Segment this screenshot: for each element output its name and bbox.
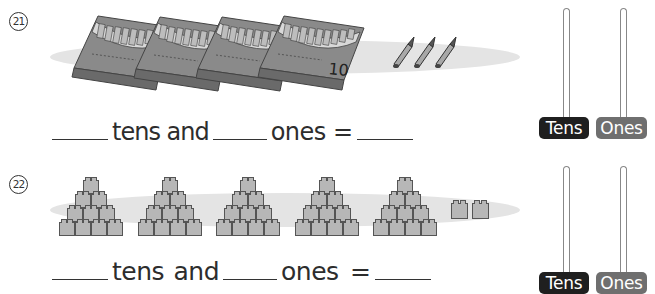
loose-crayons <box>384 34 484 74</box>
ones-equals-label: ones = <box>281 257 370 286</box>
ones-equals-label: ones = <box>271 118 353 146</box>
ones-rod[interactable] <box>620 8 627 119</box>
block-pyramid-ten <box>294 176 360 238</box>
tens-rod[interactable] <box>563 8 570 119</box>
ones-rod[interactable] <box>620 166 627 274</box>
tens-rod[interactable] <box>563 166 570 274</box>
block-pyramid-ten <box>58 176 124 238</box>
ones-label: Ones <box>596 117 647 139</box>
answer-sentence: tens and ones = <box>48 118 417 146</box>
crayon-icon <box>393 37 414 68</box>
crayon-icon <box>414 37 435 68</box>
svg-text:10: 10 <box>328 59 350 80</box>
answer-sentence: tens and ones = <box>48 257 435 286</box>
ones-answer-blank[interactable] <box>223 278 277 280</box>
crayon-box-icon: 10 <box>256 14 366 92</box>
tens-label: Tens <box>539 117 589 139</box>
block-pyramid-ten <box>372 176 438 238</box>
tens-and-label: tens and <box>112 118 209 146</box>
problem-number: 21 <box>9 12 28 31</box>
ones-label: Ones <box>596 272 647 294</box>
loose-block-one <box>451 203 468 219</box>
crayon-icon <box>435 37 456 68</box>
tens-answer-blank[interactable] <box>52 278 108 280</box>
tens-and-label: tens and <box>112 257 219 286</box>
total-answer-blank[interactable] <box>357 138 413 140</box>
block-pyramid-ten <box>215 176 281 238</box>
total-answer-blank[interactable] <box>375 278 431 280</box>
problem-number: 22 <box>9 175 28 194</box>
ones-answer-blank[interactable] <box>213 138 267 140</box>
tens-answer-blank[interactable] <box>52 138 108 140</box>
block-pyramid-ten <box>137 176 203 238</box>
loose-block-one <box>472 203 489 219</box>
tens-label: Tens <box>539 272 589 294</box>
